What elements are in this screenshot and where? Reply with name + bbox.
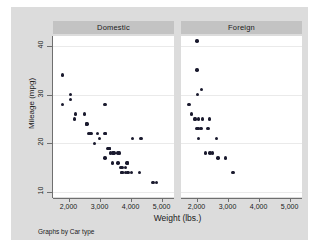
gridline <box>181 143 302 144</box>
x-tick <box>100 198 101 202</box>
scatter-point <box>118 151 121 154</box>
scatter-point <box>231 171 234 174</box>
scatter-point <box>116 161 119 164</box>
x-axis-line-domestic <box>53 198 174 199</box>
gridline <box>53 143 174 144</box>
x-tick <box>228 198 229 202</box>
scatter-point <box>195 68 198 71</box>
scatter-point <box>96 132 99 135</box>
x-tick-label: 5,000 <box>270 203 310 210</box>
scatter-point <box>93 142 96 145</box>
x-tick <box>197 198 198 202</box>
gridline <box>181 95 302 96</box>
x-axis-label: Weight (lbs.) <box>53 213 302 223</box>
scatter-point <box>187 103 190 106</box>
y-tick-label-text: 20 <box>38 138 45 146</box>
scatter-point <box>74 112 77 115</box>
gridline <box>53 192 174 193</box>
scatter-point <box>130 171 133 174</box>
y-tick-label-text: 10 <box>38 187 45 195</box>
scatter-point <box>201 117 204 120</box>
scatter-point <box>139 137 142 140</box>
scatter-point <box>215 137 218 140</box>
scatter-point <box>73 117 76 120</box>
scatter-point <box>204 151 207 154</box>
y-tick <box>47 95 52 96</box>
scatter-point <box>85 122 88 125</box>
scatter-point <box>197 137 200 140</box>
x-tick <box>259 198 260 202</box>
scatter-point <box>83 112 86 115</box>
y-tick-label: 30 <box>11 90 45 97</box>
x-tick <box>162 198 163 202</box>
scatter-point <box>196 93 199 96</box>
panel-header-foreign: Foreign <box>181 21 302 34</box>
scatter-point <box>61 73 64 76</box>
scatter-point <box>224 156 227 159</box>
y-tick-label: 20 <box>11 138 45 145</box>
x-axis-line-foreign <box>181 198 302 199</box>
scatter-point <box>126 161 129 164</box>
scatter-point <box>103 103 106 106</box>
y-tick <box>47 143 52 144</box>
scatter-point <box>89 132 92 135</box>
x-tick <box>69 198 70 202</box>
scatter-point <box>111 161 114 164</box>
scatter-point <box>61 103 64 106</box>
scatter-point <box>200 88 203 91</box>
scatter-point <box>216 156 219 159</box>
scatter-point <box>199 127 202 130</box>
scatter-point <box>104 132 107 135</box>
stata-graph-figure: Mileage (mpg) 10203040 Domestic Foreign … <box>0 0 319 252</box>
scatter-point <box>208 117 211 120</box>
panel-header-domestic: Domestic <box>53 21 174 34</box>
scatter-point <box>98 137 101 140</box>
graph-note: Graphs by Car type <box>38 228 94 235</box>
scatter-point <box>155 181 158 184</box>
scatter-point <box>103 156 106 159</box>
y-tick-label-text: 40 <box>38 40 45 48</box>
gridline <box>181 192 302 193</box>
y-tick-label: 10 <box>11 187 45 194</box>
scatter-point <box>69 93 72 96</box>
gridline <box>181 46 302 47</box>
scatter-point <box>131 137 134 140</box>
scatter-point <box>206 127 209 130</box>
x-tick <box>290 198 291 202</box>
scatter-point <box>69 98 72 101</box>
plot-area-domestic <box>53 36 174 197</box>
y-tick-label: 40 <box>11 41 45 48</box>
scatter-point <box>211 151 214 154</box>
gridline <box>53 46 174 47</box>
graph-canvas: Mileage (mpg) 10203040 Domestic Foreign … <box>11 7 308 240</box>
scatter-point <box>190 112 193 115</box>
x-tick <box>131 198 132 202</box>
y-tick <box>47 192 52 193</box>
scatter-point <box>197 117 200 120</box>
scatter-point <box>112 151 115 154</box>
y-tick-label-text: 30 <box>38 89 45 97</box>
scatter-point <box>138 171 141 174</box>
plot-area-foreign <box>181 36 302 197</box>
scatter-point <box>108 147 111 150</box>
scatter-point <box>124 166 127 169</box>
scatter-point <box>195 39 198 42</box>
y-tick <box>47 46 52 47</box>
